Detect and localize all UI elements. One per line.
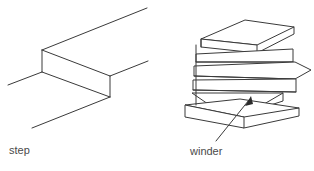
step-label: step — [9, 144, 30, 156]
winder-tread-4 — [193, 79, 296, 92]
winder-diagram: winder — [185, 20, 311, 157]
step-upper-nosing-edge — [42, 50, 110, 76]
step-lower-tread — [8, 72, 110, 128]
winder-tread-bottom — [185, 99, 299, 128]
line-drawing-canvas: step — [0, 0, 314, 171]
winder-label: winder — [189, 145, 223, 157]
step-riser — [42, 50, 110, 97]
step-upper-tread — [42, 8, 148, 76]
step-diagram: step — [8, 8, 148, 156]
figure-root: step — [0, 0, 314, 171]
step-lower-left-edge — [8, 72, 42, 85]
winder-tread-top — [201, 20, 294, 53]
step-riser-bottom-edge — [42, 72, 110, 97]
winder-tread-3 — [194, 62, 311, 79]
step-upper-right-edge — [110, 61, 148, 76]
step-lower-front-edge — [32, 97, 110, 128]
step-upper-back-edge — [42, 8, 147, 50]
